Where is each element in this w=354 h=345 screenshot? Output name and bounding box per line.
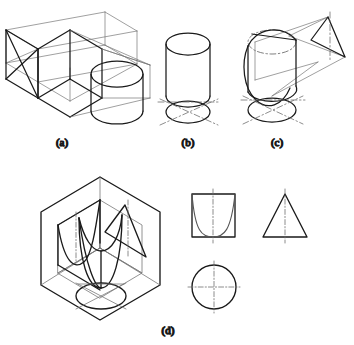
panel-b-caption: (b) (182, 136, 195, 149)
drawing-canvas: (a) (b) (0, 0, 354, 345)
panel-d-caption: (d) (162, 324, 175, 337)
figure-background (0, 0, 354, 345)
technical-drawing-figure: (a) (b) (0, 0, 354, 345)
panel-a-caption: (a) (56, 136, 69, 149)
panel-c-caption: (c) (271, 136, 284, 149)
